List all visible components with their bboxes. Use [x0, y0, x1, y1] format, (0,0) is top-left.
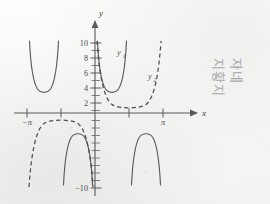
y-tick-label-8: 8: [84, 54, 88, 63]
curve-y1-branch-lower-left: [64, 134, 93, 185]
y-axis-label: y: [98, 8, 104, 18]
curve-y1-branch-upper-left: [30, 41, 59, 92]
curve-label-y1-base: y: [116, 47, 121, 57]
y-tick-label-10: 10: [80, 39, 88, 48]
curve-label-y1: y 1: [116, 47, 126, 59]
y-tick-label-4: 4: [84, 84, 88, 93]
x-axis-label: x: [201, 108, 207, 118]
y-axis-ticks-minor: [92, 51, 101, 181]
y-tick-label-6: 6: [84, 69, 88, 78]
figure-root: 10 8 6 4 2 −10 −π π y x y 1 y 2 지황지 자네: [0, 0, 270, 204]
x-tick-label-pi: π: [161, 118, 166, 127]
curve-label-y2: y 2: [147, 71, 157, 83]
curve-y1-branch-upper-right: [98, 41, 127, 92]
curve-y1-branch-lower-right: [132, 134, 161, 185]
x-tick-label-neg-pi: −π: [22, 118, 33, 127]
curve-label-y2-base: y: [147, 71, 152, 81]
x-axis-arrowhead: [190, 110, 198, 117]
curve-y2-branch-lower: [29, 120, 93, 187]
curve-label-y2-subscript: 2: [154, 77, 157, 83]
scan-speck: [145, 171, 147, 173]
curve-label-y1-subscript: 1: [123, 53, 126, 59]
x-axis: [14, 110, 198, 117]
graph-canvas: 10 8 6 4 2 −10 −π π y x y 1 y 2: [0, 0, 270, 204]
scan-speck: [70, 127, 72, 129]
y-tick-label-neg-10: −10: [75, 184, 88, 193]
y-axis-arrowhead: [92, 20, 99, 28]
y-tick-label-2: 2: [84, 99, 88, 108]
